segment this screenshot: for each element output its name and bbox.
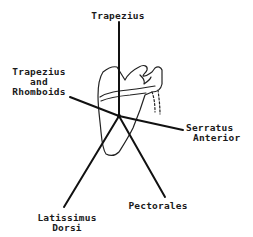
label-line: Anterior [186,133,248,143]
trapezius-rhomboids-line [70,97,119,116]
label-trapezius: Trapezius [86,11,150,21]
serratus-anterior-line [119,116,183,130]
label-trapezius-rhomboids: Trapezius and Rhomboids [6,67,72,97]
latissimus-dorsi-line [64,116,119,207]
label-line: Rhomboids [6,87,72,97]
label-line: Dorsi [34,223,100,233]
label-pectorales-text: Pectorales [128,200,187,211]
center-point [117,114,121,118]
scapula-force-diagram [0,0,253,237]
scapula-outline [98,66,162,156]
label-latissimus-dorsi: Latissimus Dorsi [34,213,100,233]
label-trapezius-text: Trapezius [91,10,144,21]
force-lines [64,22,183,207]
label-serratus-anterior: Serratus Anterior [186,123,248,143]
pectorales-line [119,116,165,197]
label-pectorales: Pectorales [128,201,188,211]
